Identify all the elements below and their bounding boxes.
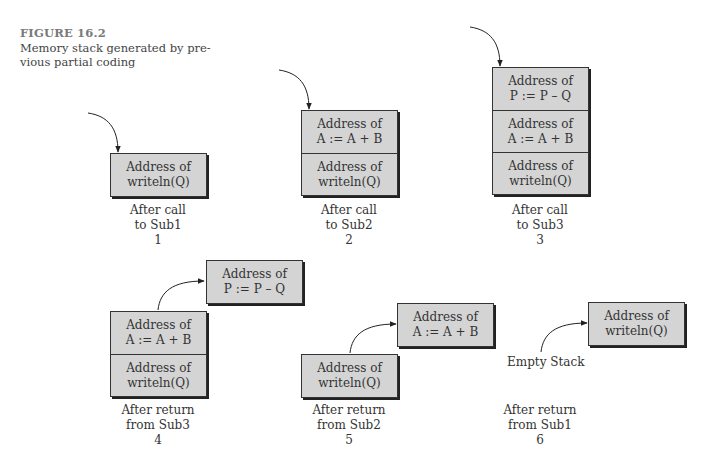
caption-line2: from Sub3	[98, 418, 218, 433]
cell-label: Address of	[604, 309, 669, 324]
caption-line1: After call	[289, 203, 409, 218]
caption-panel-2: After call to Sub2 2	[289, 203, 409, 248]
cell-value: P := P – Q	[224, 282, 285, 297]
caption-panel-6: After return from Sub1 6	[480, 403, 600, 448]
caption-number: 5	[289, 433, 409, 448]
caption-line2: to Sub1	[98, 218, 218, 233]
caption-line1: After return	[289, 403, 409, 418]
cell-value: writeln(Q)	[127, 175, 190, 190]
pop-arrow-5	[350, 324, 396, 353]
caption-line1: After call	[480, 203, 600, 218]
stack-cell: Address of writeln(Q)	[302, 355, 397, 397]
stack-cell: Address of writeln(Q)	[111, 154, 206, 196]
cell-label: Address of	[126, 318, 191, 333]
cell-value: writeln(Q)	[509, 174, 572, 189]
push-arrow-2	[279, 70, 309, 109]
stack-panel-1: Address of writeln(Q)	[110, 153, 207, 197]
caption-number: 4	[98, 433, 218, 448]
caption-line1: After return	[480, 403, 600, 418]
cell-label: Address of	[508, 74, 573, 89]
stack-cell: Address of A := A + B	[302, 111, 397, 153]
cell-label: Address of	[508, 159, 573, 174]
caption-panel-3: After call to Sub3 3	[480, 203, 600, 248]
stack-cell: Address of writeln(Q)	[493, 152, 588, 194]
caption-panel-4: After return from Sub3 4	[98, 403, 218, 448]
stack-cell: Address of P := P – Q	[493, 68, 588, 110]
stack-panel-4: Address of A := A + B Address of writeln…	[110, 311, 207, 397]
popped-cell: Address of P := P – Q	[207, 261, 302, 303]
stack-cell: Address of A := A + B	[493, 110, 588, 152]
stack-cell: Address of A := A + B	[111, 312, 206, 354]
stack-cell: Address of writeln(Q)	[111, 354, 206, 396]
caption-number: 3	[480, 233, 600, 248]
popped-box-panel-4: Address of P := P – Q	[206, 260, 303, 304]
cell-label: Address of	[413, 310, 478, 325]
stack-panel-2: Address of A := A + B Address of writeln…	[301, 110, 398, 196]
cell-value: A := A + B	[413, 325, 479, 340]
cell-label: Address of	[222, 267, 287, 282]
push-arrow-3	[470, 27, 500, 66]
caption-line1: After call	[98, 203, 218, 218]
cell-value: A := A + B	[508, 132, 574, 147]
cell-label: Address of	[317, 361, 382, 376]
cell-value: A := A + B	[317, 132, 383, 147]
popped-cell: Address of writeln(Q)	[589, 303, 684, 345]
cell-label: Address of	[126, 160, 191, 175]
cell-value: writeln(Q)	[605, 324, 668, 339]
cell-label: Address of	[508, 117, 573, 132]
cell-label: Address of	[126, 361, 191, 376]
caption-panel-5: After return from Sub2 5	[289, 403, 409, 448]
stack-panel-3: Address of P := P – Q Address of A := A …	[492, 67, 589, 195]
popped-cell: Address of A := A + B	[398, 304, 493, 346]
cell-value: A := A + B	[126, 333, 192, 348]
push-arrow-1	[88, 113, 118, 152]
pop-arrow-4	[158, 281, 204, 310]
popped-box-panel-6: Address of writeln(Q)	[588, 302, 685, 346]
stack-panel-5: Address of writeln(Q)	[301, 354, 398, 398]
caption-line2: to Sub3	[480, 218, 600, 233]
cell-value: P := P – Q	[510, 89, 571, 104]
cell-label: Address of	[317, 160, 382, 175]
caption-number: 2	[289, 233, 409, 248]
caption-line2: from Sub2	[289, 418, 409, 433]
caption-line2: to Sub2	[289, 218, 409, 233]
caption-number: 1	[98, 233, 218, 248]
caption-panel-1: After call to Sub1 1	[98, 203, 218, 248]
cell-value: writeln(Q)	[127, 376, 190, 391]
cell-label: Address of	[317, 117, 382, 132]
popped-box-panel-5: Address of A := A + B	[397, 303, 494, 347]
stack-cell: Address of writeln(Q)	[302, 153, 397, 195]
caption-line2: from Sub1	[480, 418, 600, 433]
caption-line1: After return	[98, 403, 218, 418]
pop-arrow-6	[541, 323, 587, 352]
empty-stack-label: Empty Stack	[507, 355, 584, 369]
cell-value: writeln(Q)	[318, 175, 381, 190]
cell-value: writeln(Q)	[318, 376, 381, 391]
caption-number: 6	[480, 433, 600, 448]
